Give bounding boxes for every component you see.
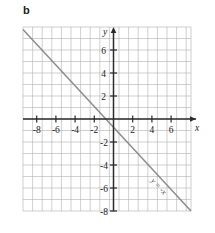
x-tick-label: -6	[52, 125, 60, 135]
x-tick-label: 6	[169, 125, 174, 135]
y-tick-label: 4	[101, 69, 106, 79]
x-tick-label: -4	[71, 125, 79, 135]
y-tick-label: 2	[101, 92, 106, 102]
x-tick-label: 2	[130, 125, 135, 135]
y-axis-label: y	[102, 27, 108, 37]
y-tick-label: -2	[100, 138, 108, 148]
y-tick-label: -8	[100, 207, 108, 217]
x-tick-label: -8	[33, 125, 41, 135]
graph-figure: b	[0, 0, 215, 233]
x-axis-arrow-icon	[190, 116, 196, 122]
y-tick-label: -4	[100, 161, 108, 171]
x-tick-label: 4	[150, 125, 155, 135]
x-axis-label: x	[194, 123, 200, 133]
y-tick-label: 6	[101, 46, 106, 56]
coordinate-plane: -8 -6 -4 -2 2 4 6 6 4 2 -2 -4 -6 -8 y x …	[0, 0, 215, 233]
y-tick-label: -6	[100, 184, 108, 194]
x-tick-label: -2	[90, 125, 98, 135]
